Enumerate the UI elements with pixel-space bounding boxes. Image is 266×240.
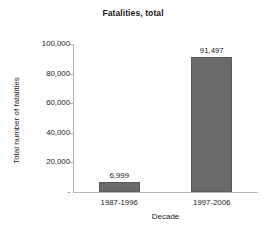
chart-container: Fatalities, total Total number of fatali… — [0, 0, 266, 240]
y-axis-tick-label: 60,000 — [22, 98, 70, 107]
y-axis-tick-label: 40,000 — [22, 128, 70, 137]
bar: 6,999 — [99, 44, 140, 192]
y-axis-tick-label: 20,000 — [22, 157, 70, 166]
y-axis-tick-group: 100,00080,00060,00040,00020,000- — [0, 0, 70, 240]
x-axis-category-label: 1997-2006 — [172, 198, 252, 207]
plot-area: 6,99991,497 — [73, 44, 258, 192]
y-axis-tick-label: 80,000 — [22, 69, 70, 78]
bar-rect — [191, 57, 232, 192]
bar-value-label: 6,999 — [84, 171, 154, 180]
x-axis-line — [73, 192, 258, 193]
bar: 91,497 — [191, 44, 232, 192]
x-axis-category-label: 1987-1996 — [79, 198, 159, 207]
y-axis-tick-label: 100,000 — [22, 39, 70, 48]
bar-rect — [99, 182, 140, 192]
bar-value-label: 91,497 — [177, 46, 247, 55]
x-axis-title: Decade — [73, 212, 258, 221]
y-axis-tick-label: - — [22, 187, 70, 196]
